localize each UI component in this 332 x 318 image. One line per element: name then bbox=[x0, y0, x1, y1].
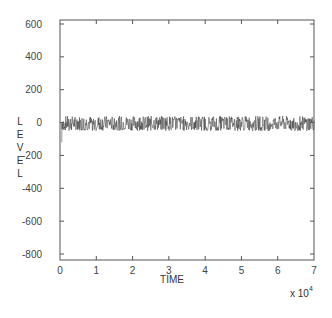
y-tick-label: -800 bbox=[22, 249, 42, 260]
svg-text:E: E bbox=[17, 129, 24, 140]
x-tick-label: 6 bbox=[275, 265, 281, 276]
plot-frame bbox=[60, 20, 314, 260]
signal-line bbox=[62, 116, 314, 142]
line-chart: 01234567 6004002000-200-400-600-800 TIME… bbox=[0, 0, 332, 318]
x-tick-label: 5 bbox=[239, 265, 245, 276]
x-tick-label: 1 bbox=[94, 265, 100, 276]
x-tick-label: 7 bbox=[311, 265, 317, 276]
x-axis-label: TIME bbox=[160, 274, 184, 285]
y-tick-label: -400 bbox=[22, 183, 42, 194]
x-tick-label: 2 bbox=[130, 265, 136, 276]
svg-text:L: L bbox=[17, 168, 23, 179]
y-tick-label: 400 bbox=[25, 51, 42, 62]
y-axis-ticks: 6004002000-200-400-600-800 bbox=[22, 19, 314, 260]
y-tick-label: -200 bbox=[22, 150, 42, 161]
y-tick-label: 600 bbox=[25, 19, 42, 30]
svg-text:V: V bbox=[17, 142, 24, 153]
y-axis-label: LEVEL bbox=[17, 116, 24, 179]
y-tick-label: 0 bbox=[36, 117, 42, 128]
x-tick-label: 0 bbox=[57, 265, 63, 276]
x-axis-multiplier: x 104 bbox=[290, 285, 313, 299]
x-tick-label: 4 bbox=[202, 265, 208, 276]
y-tick-label: 200 bbox=[25, 84, 42, 95]
y-tick-label: -600 bbox=[22, 216, 42, 227]
svg-text:L: L bbox=[17, 116, 23, 127]
svg-text:E: E bbox=[17, 155, 24, 166]
x-axis-ticks: 01234567 bbox=[57, 20, 317, 276]
